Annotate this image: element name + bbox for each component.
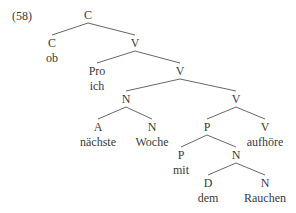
tree-edge bbox=[180, 79, 236, 91]
node-label: A bbox=[94, 121, 103, 133]
tree-edge bbox=[236, 163, 265, 175]
node-label: C bbox=[84, 9, 92, 21]
tree-edges bbox=[0, 0, 296, 213]
tree-edge bbox=[207, 135, 236, 147]
node-label: V bbox=[131, 37, 140, 49]
tree-edge bbox=[126, 79, 180, 91]
leaf-word: Woche bbox=[135, 136, 168, 148]
node-label: N bbox=[261, 177, 270, 189]
tree-edge bbox=[97, 51, 135, 63]
node-label: C bbox=[48, 37, 56, 49]
tree-edge bbox=[208, 163, 236, 175]
tree-edge bbox=[207, 107, 236, 119]
tree-edge bbox=[236, 107, 265, 119]
node-label: P bbox=[178, 149, 185, 161]
leaf-word: dem bbox=[198, 192, 219, 204]
node-label: Pro bbox=[89, 65, 106, 77]
tree-edge bbox=[52, 23, 88, 35]
tree-edge bbox=[126, 107, 152, 119]
tree-edge bbox=[98, 107, 126, 119]
tree-edge bbox=[135, 51, 180, 63]
node-label: N bbox=[232, 149, 241, 161]
node-label: P bbox=[204, 121, 211, 133]
tree-edge bbox=[88, 23, 135, 35]
leaf-word: aufhöre bbox=[247, 136, 284, 148]
tree-edge bbox=[181, 135, 207, 147]
node-label: D bbox=[204, 177, 213, 189]
leaf-word: ob bbox=[46, 52, 58, 64]
node-label: V bbox=[176, 65, 185, 77]
leaf-word: mit bbox=[173, 164, 189, 176]
leaf-word: nächste bbox=[80, 136, 116, 148]
node-label: N bbox=[122, 93, 131, 105]
node-label: N bbox=[148, 121, 157, 133]
leaf-word: Rauchen bbox=[244, 192, 286, 204]
node-label: V bbox=[261, 121, 270, 133]
leaf-word: ich bbox=[90, 80, 105, 92]
node-label: V bbox=[232, 93, 241, 105]
